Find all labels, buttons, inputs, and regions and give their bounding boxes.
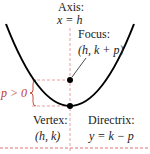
- focus-coordinates: (h, k + p): [78, 43, 123, 57]
- vertex-coordinates: (h, k): [35, 129, 60, 143]
- p-brace: [30, 80, 36, 106]
- axis-equation: x = h: [56, 13, 82, 27]
- directrix-equation: y = k − p: [88, 129, 134, 143]
- vertex-title: Vertex:: [33, 113, 68, 127]
- parabola-diagram: Axis: x = h Focus: (h, k + p) p > 0 Vert…: [0, 0, 150, 154]
- p-label: p > 0: [0, 86, 27, 100]
- focus-pointer: [72, 58, 86, 77]
- directrix-title: Directrix:: [88, 113, 135, 127]
- vertex-point: [67, 103, 73, 109]
- focus-title: Focus:: [78, 27, 110, 41]
- focus-point: [67, 77, 73, 83]
- axis-title: Axis:: [58, 0, 84, 14]
